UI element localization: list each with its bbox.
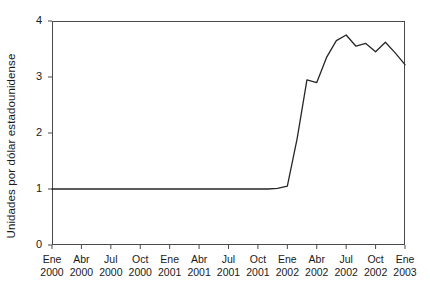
y-tick-label: 2 [8, 127, 42, 138]
chart-figure: Unidades por dólar estadounidense 01234 … [0, 0, 430, 292]
y-tick-label: 0 [8, 239, 42, 250]
x-axis-tick-marks [52, 245, 405, 249]
x-tick-label: Ene2003 [385, 253, 425, 279]
plot-area [52, 21, 405, 245]
y-tick-label: 1 [8, 183, 42, 194]
y-tick-label: 4 [8, 15, 42, 26]
y-tick-label: 3 [8, 71, 42, 82]
